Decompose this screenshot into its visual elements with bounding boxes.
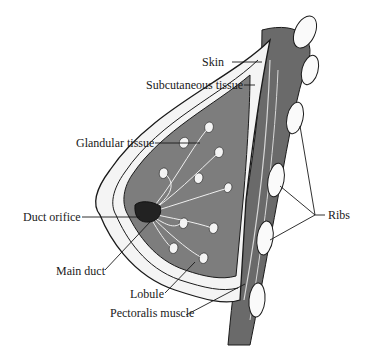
label-subcutaneous-tissue: Subcutaneous tissue — [146, 78, 243, 92]
label-glandular-tissue: Glandular tissue — [76, 136, 154, 150]
label-pectoralis-muscle: Pectoralis muscle — [110, 306, 194, 320]
label-duct-orifice: Duct orifice — [23, 210, 81, 224]
nipple — [135, 202, 161, 222]
label-lobule: Lobule — [130, 287, 164, 301]
label-skin: Skin — [202, 55, 224, 69]
label-main-duct: Main duct — [56, 264, 105, 278]
label-ribs: Ribs — [328, 208, 350, 222]
